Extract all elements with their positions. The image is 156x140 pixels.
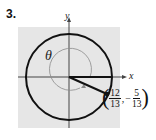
open-paren: ( (102, 86, 109, 109)
y-denominator: 13 (132, 99, 142, 109)
x-axis-label: x (129, 70, 133, 81)
close-paren: ) (141, 86, 148, 109)
theta-label: θ (45, 48, 52, 64)
y-fraction: 5 13 (132, 88, 142, 109)
x-denominator: 13 (110, 99, 120, 109)
x-axis-arrow-icon (122, 75, 127, 79)
y-axis-label: y (65, 10, 69, 21)
y-numerator: 5 (133, 88, 140, 99)
x-numerator: 12 (109, 88, 121, 99)
x-fraction: 12 13 (109, 88, 121, 109)
point-coordinates-label: ( 12 13 , − 5 13 ) (102, 87, 149, 109)
comma: , (122, 93, 125, 104)
minus-sign: − (125, 93, 131, 104)
